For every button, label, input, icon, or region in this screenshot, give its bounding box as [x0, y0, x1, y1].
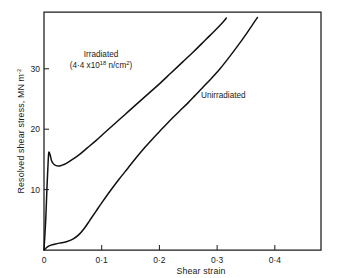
x-tick-label: 0·3: [211, 255, 224, 265]
y-axis-title-text: Resolved shear stress, MN m: [16, 74, 26, 193]
chart-background: [0, 0, 341, 278]
y-tick-label: 30: [31, 64, 41, 74]
fluence-prefix: (4·4 x10: [70, 61, 100, 70]
x-tick-label: 0·1: [96, 255, 109, 265]
x-tick-label: 0·4: [269, 255, 282, 265]
x-axis-title: Shear strain: [176, 266, 225, 276]
fluence-close: ): [130, 61, 133, 70]
y-tick-label: 10: [31, 185, 41, 195]
shear-stress-strain-chart: 102030 00·10·20·30·4 Irradiated (4·4 x10…: [0, 0, 341, 278]
x-tick-label: 0·2: [153, 255, 166, 265]
label-unirradiated: Unirradiated: [201, 91, 246, 100]
y-tick-label: 20: [31, 124, 41, 134]
y-axis-title-exponent: -2: [16, 69, 22, 74]
y-axis-title: Resolved shear stress, MN m-2: [16, 69, 26, 194]
figure-container: 102030 00·10·20·30·4 Irradiated (4·4 x10…: [0, 0, 341, 278]
fluence-suffix: n/cm: [106, 61, 126, 70]
x-tick-label: 0: [42, 255, 47, 265]
label-irradiated: Irradiated: [84, 50, 119, 59]
